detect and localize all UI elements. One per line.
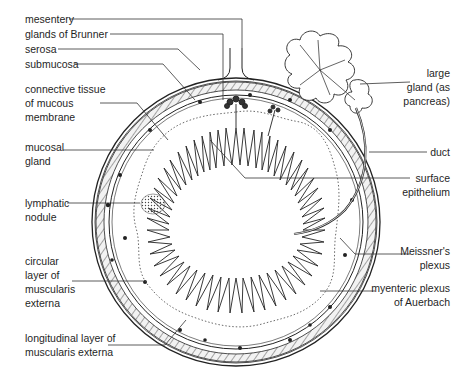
label-duct: duct (430, 145, 450, 159)
label-large-gland-1: large (427, 66, 450, 80)
label-circular-layer-3: muscularis (25, 282, 75, 296)
label-circular-layer-1: circular (25, 254, 59, 268)
label-myenteric-plexus-2: of Auerbach (394, 295, 450, 309)
label-circular-layer-2: layer of (25, 268, 59, 282)
label-myenteric-plexus-1: myenteric plexus (371, 281, 450, 295)
villi (147, 128, 325, 313)
label-surface-epithelium-2: epithelium (402, 185, 450, 199)
label-surface-epithelium-1: surface (416, 171, 450, 185)
label-glands-of-brunner: glands of Brunner (25, 27, 108, 41)
label-mucosal-gland-1: mucosal (25, 140, 64, 154)
label-lymphatic-nodule-1: lymphatic (25, 196, 69, 210)
label-meissners-plexus-2: plexus (420, 258, 450, 272)
label-connective-tissue-1: connective tissue (25, 82, 106, 96)
circular-muscle-layer (109, 95, 363, 349)
label-large-gland-2: gland (as (407, 80, 450, 94)
label-serosa: serosa (25, 42, 57, 56)
label-connective-tissue-3: membrane (25, 110, 75, 124)
label-lymphatic-nodule-2: nodule (25, 210, 57, 224)
label-connective-tissue-2: of mucous (25, 96, 73, 110)
label-large-gland-3: pancreas) (403, 94, 450, 108)
brunner-glands (225, 96, 281, 136)
label-mesentery: mesentery (25, 12, 74, 26)
muscularis-mucosae-boundary (134, 111, 339, 327)
label-longitudinal-layer-1: longitudinal layer of (25, 331, 115, 345)
label-meissners-plexus-1: Meissner's (400, 244, 450, 258)
label-mucosal-gland-2: gland (25, 154, 51, 168)
label-longitudinal-layer-2: muscularis externa (25, 345, 113, 359)
label-circular-layer-4: externa (25, 296, 60, 310)
lymphatic-nodule-shape (141, 194, 165, 214)
label-submucosa: submucosa (25, 57, 79, 71)
